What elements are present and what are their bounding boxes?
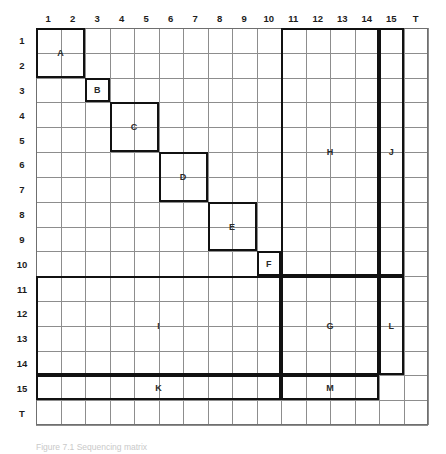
row-header-4: 4 [19,109,24,120]
row-header-12: 12 [17,308,28,319]
row-header-6: 6 [19,159,24,170]
row-header-7: 7 [19,184,24,195]
block-label-c: C [131,122,138,132]
row-header-5: 5 [19,134,24,145]
column-header-12: 12 [312,13,323,24]
column-header-11: 11 [288,13,298,24]
figure-caption: Figure 7.1 Sequencing matrix [36,442,416,452]
block-matrix-figure: 123456789101112131415T 12345678910111213… [0,0,446,454]
column-header-15: 15 [386,13,397,24]
block-label-j: J [389,147,394,157]
row-header-2: 2 [19,60,24,71]
column-header-9: 9 [242,13,247,24]
row-header-14: 14 [17,357,28,368]
column-header-13: 13 [337,13,348,24]
row-header-1: 1 [19,35,24,46]
block-label-f: F [266,259,272,269]
row-header-9: 9 [19,233,24,244]
matrix-grid: ABCDEFHJIGLKM [36,28,428,425]
block-label-g: G [326,321,333,331]
column-header-T: T [413,13,419,24]
row-header-10: 10 [17,258,28,269]
block-label-b: B [94,85,101,95]
block-label-m: M [326,383,334,393]
grid-line-vertical [428,28,429,425]
row-header-8: 8 [19,209,24,220]
row-header-11: 11 [17,283,27,294]
block-label-i: I [157,321,160,331]
grid-line-horizontal [36,400,428,401]
row-header-T: T [19,407,25,418]
block-label-d: D [180,172,187,182]
block-label-k: K [155,383,162,393]
column-header-4: 4 [119,13,124,24]
column-header-8: 8 [217,13,222,24]
row-header-15: 15 [17,382,28,393]
column-header-1: 1 [46,13,51,24]
column-header-3: 3 [95,13,100,24]
block-label-l: L [389,321,395,331]
row-header-3: 3 [19,85,24,96]
column-header-10: 10 [263,13,274,24]
column-header-14: 14 [361,13,372,24]
column-header-5: 5 [144,13,149,24]
row-header-13: 13 [17,333,28,344]
block-label-e: E [229,222,235,232]
block-label-h: H [327,147,334,157]
grid-line-horizontal [36,425,428,426]
column-header-2: 2 [70,13,75,24]
block-label-a: A [57,48,64,58]
column-header-7: 7 [193,13,198,24]
column-header-6: 6 [168,13,173,24]
